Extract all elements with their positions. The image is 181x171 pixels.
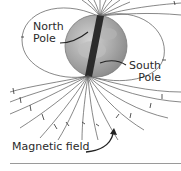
south-pole-label: South Pole (129, 60, 161, 84)
curved-arrow-icon (86, 128, 117, 152)
bottom-divider (10, 163, 181, 164)
magnetic-field-label: Magnetic field (12, 141, 90, 153)
north-pole-label: North Pole (33, 21, 64, 45)
top-field-lines (82, 0, 181, 16)
bottom-field-lines (10, 76, 181, 140)
north-label-line2: Pole (33, 33, 64, 45)
south-label-line2: Pole (129, 72, 161, 84)
